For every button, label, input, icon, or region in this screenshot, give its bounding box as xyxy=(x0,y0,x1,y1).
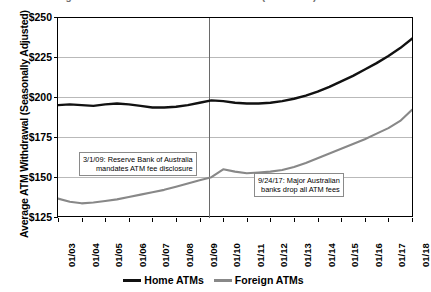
annotation-banks-drop-fees: 9/24/17: Major Australian banks drop all… xyxy=(254,173,344,197)
plot-area: 3/1/09: Reserve Bank of Australia mandat… xyxy=(57,17,413,217)
x-tickmark-01-04 xyxy=(82,218,83,222)
annotation-rba-line1: 3/1/09: Reserve Bank of Australia xyxy=(83,155,193,164)
annotation-banks-line2: banks drop all ATM fees xyxy=(258,185,340,194)
chart-legend: Home ATMs Foreign ATMs xyxy=(0,274,427,286)
chart-title-clipped: Average ATM Withdrawal Amounts in Austra… xyxy=(0,0,427,8)
x-tickmark-01-11 xyxy=(247,218,248,222)
x-tick-label-01-11: 01/11 xyxy=(255,244,266,267)
legend-item-home-atms: Home ATMs xyxy=(123,274,204,286)
x-tickmark-01-18 xyxy=(412,218,413,222)
x-tickmark-01-17 xyxy=(388,218,389,222)
x-tickmark-01-03 xyxy=(58,218,59,222)
x-tickmark-01-09 xyxy=(200,218,201,222)
x-tickmark-01-10 xyxy=(223,218,224,222)
series-lines xyxy=(58,18,412,216)
x-tick-label-01-04: 01/04 xyxy=(90,243,101,267)
x-tick-label-01-16: 01/16 xyxy=(373,243,384,267)
y-tick-labels: $250 $225 $200 $175 $150 $125 xyxy=(6,0,52,292)
x-tick-label-01-12: 01/12 xyxy=(278,243,289,267)
x-tick-label-01-08: 01/08 xyxy=(184,243,195,267)
legend-item-foreign-atms: Foreign ATMs xyxy=(214,274,304,286)
y-tick-label-225: $225 xyxy=(8,52,52,62)
legend-swatch-home-icon xyxy=(123,279,141,282)
x-tickmark-01-13 xyxy=(294,218,295,222)
x-tickmark-01-14 xyxy=(318,218,319,222)
x-tick-label-01-13: 01/13 xyxy=(302,243,313,267)
legend-swatch-foreign-icon xyxy=(214,279,232,282)
x-tick-label-01-05: 01/05 xyxy=(113,243,124,267)
x-tick-label-01-03: 01/03 xyxy=(66,243,77,267)
x-tickmark-01-16 xyxy=(365,218,366,222)
x-tick-label-01-10: 01/10 xyxy=(231,243,242,267)
legend-label-foreign-atms: Foreign ATMs xyxy=(235,274,304,286)
y-tick-label-175: $175 xyxy=(8,132,52,142)
x-tickmark-01-12 xyxy=(270,218,271,222)
annotation-banks-line1: 9/24/17: Major Australian xyxy=(258,176,340,185)
legend-label-home-atms: Home ATMs xyxy=(144,274,204,286)
x-tick-label-01-09: 01/09 xyxy=(208,243,219,267)
x-tick-label-01-17: 01/17 xyxy=(396,243,407,267)
x-tick-label-01-06: 01/06 xyxy=(137,243,148,267)
x-tick-label-01-18: 01/18 xyxy=(420,243,431,267)
x-tick-label-01-07: 01/07 xyxy=(160,243,171,267)
x-tick-labels: 01/0301/0401/0501/0601/0701/0801/0901/10… xyxy=(57,223,413,269)
y-tick-label-150: $150 xyxy=(8,172,52,182)
annotation-rba-disclosure: 3/1/09: Reserve Bank of Australia mandat… xyxy=(79,152,197,176)
y-tick-label-200: $200 xyxy=(8,92,52,102)
chart-title-text: Average ATM Withdrawal Amounts in Austra… xyxy=(38,0,316,2)
annotation-rba-line2: mandates ATM fee disclosure xyxy=(83,164,193,173)
y-tick-label-250: $250 xyxy=(8,12,52,22)
x-tickmark-01-07 xyxy=(152,218,153,222)
y-tick-label-125: $125 xyxy=(8,212,52,222)
x-tick-label-01-14: 01/14 xyxy=(326,243,337,267)
x-tickmark-01-15 xyxy=(341,218,342,222)
x-tick-label-01-15: 01/15 xyxy=(349,243,360,267)
x-tickmark-01-08 xyxy=(176,218,177,222)
x-tickmark-01-06 xyxy=(129,218,130,222)
home-atms-line xyxy=(58,39,412,108)
x-tickmark-01-05 xyxy=(105,218,106,222)
